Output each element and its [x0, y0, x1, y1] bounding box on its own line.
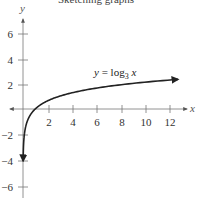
- svg-text:−4: −4: [1, 155, 13, 167]
- svg-text:12: 12: [165, 116, 176, 128]
- svg-text:4: 4: [70, 116, 76, 128]
- svg-text:4: 4: [8, 54, 14, 66]
- function-label: y = log3 x: [93, 66, 136, 81]
- svg-text:2: 2: [8, 79, 14, 91]
- svg-text:−6: −6: [1, 181, 13, 193]
- svg-text:2: 2: [46, 116, 52, 128]
- y-axis-label: y: [19, 2, 25, 14]
- svg-text:6: 6: [8, 28, 14, 40]
- x-tick-labels: 2 4 6 8 10 12: [46, 116, 175, 128]
- x-axis-label: x: [189, 102, 195, 114]
- svg-text:6: 6: [94, 116, 100, 128]
- y-tick-labels: 6 4 2 −2 −4 −6: [1, 28, 13, 193]
- svg-text:−2: −2: [1, 129, 13, 141]
- cropped-heading-text: Sketching graphs: [58, 0, 134, 5]
- svg-text:8: 8: [119, 116, 125, 128]
- log-function-chart: Sketching graphs x y 2 4 6 8 10 12 6 4 2…: [0, 0, 197, 198]
- svg-text:10: 10: [141, 116, 153, 128]
